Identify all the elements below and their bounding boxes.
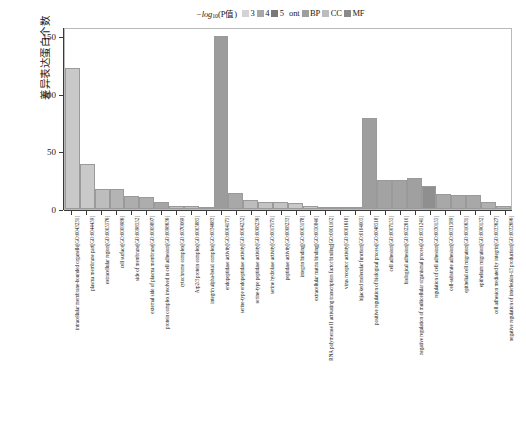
bar-cell — [481, 29, 496, 209]
bar-cell — [332, 29, 347, 209]
bar[interactable] — [65, 68, 80, 209]
bar-cell — [139, 29, 154, 209]
y-axis-tick-label: 0 — [16, 205, 56, 215]
x-axis-tick — [79, 211, 94, 215]
x-axis-tick — [94, 211, 109, 215]
x-label-cell: cytochrome complex[GO:0070069] — [169, 216, 184, 421]
x-label-cell: cell adhesion mediated by integrin[GO:00… — [482, 216, 497, 421]
bar[interactable] — [124, 196, 139, 209]
x-label-cell: serine-type endopeptidase activity[GO:00… — [228, 216, 243, 421]
bar[interactable] — [258, 202, 273, 209]
x-axis-tick-label: hijacked molecular function[GO:0104005] — [355, 216, 361, 301]
bar-cell — [407, 29, 422, 209]
x-axis-tick — [169, 211, 184, 215]
bar[interactable] — [214, 36, 229, 209]
plot-area — [64, 28, 512, 210]
bar[interactable] — [347, 207, 362, 209]
x-label-cell: hijacked molecular function[GO:0104005] — [348, 216, 363, 421]
legend-label-4: 4 — [265, 8, 269, 18]
x-label-cell: side of membrane[GO:0098552] — [124, 216, 139, 421]
bar[interactable] — [422, 186, 437, 209]
y-axis-tick — [59, 37, 63, 38]
x-label-cell: RNA polymerase II activating transcripti… — [318, 216, 333, 421]
x-axis-tick-label: plasma membrane part[GO:0044459] — [86, 216, 92, 291]
bar[interactable] — [332, 207, 347, 209]
x-axis-tick — [437, 211, 452, 215]
bar[interactable] — [362, 118, 377, 209]
x-axis-tick — [184, 211, 199, 215]
bar-cell — [318, 29, 333, 209]
bar[interactable] — [139, 197, 154, 209]
bar[interactable] — [451, 195, 466, 209]
x-label-cell: extracellular region[GO:0005576] — [94, 216, 109, 421]
bar[interactable] — [481, 202, 496, 209]
bar[interactable] — [466, 195, 481, 209]
bar[interactable] — [184, 206, 199, 209]
x-axis-tick-label: side of membrane[GO:0098552] — [131, 216, 137, 281]
bar-cell — [199, 29, 214, 209]
bar[interactable] — [199, 207, 214, 209]
x-axis-tick — [198, 211, 213, 215]
bar-cell — [288, 29, 303, 209]
chart-legend: −log10(P值) 3 4 5 ont BP CC — [196, 7, 366, 19]
x-axis-tick-label: negative regulation of multicellular org… — [415, 216, 421, 355]
bar-cell — [496, 29, 511, 209]
bar-cell — [377, 29, 392, 209]
legend-swatch-4 — [257, 10, 264, 17]
bar-cell — [347, 29, 362, 209]
bar[interactable] — [80, 164, 95, 209]
bar-cell — [392, 29, 407, 209]
bar[interactable] — [228, 193, 243, 209]
legend-group-pvalue: 3 4 5 — [242, 8, 286, 18]
bar[interactable] — [496, 206, 511, 209]
bar[interactable] — [169, 206, 184, 209]
x-label-cell: epithelium migration[GO:0090132] — [467, 216, 482, 421]
x-axis-tick-label: epithelium migration[GO:0090132] — [475, 216, 481, 287]
bar[interactable] — [392, 180, 407, 209]
legend-item-pvalue-5[interactable]: 5 — [271, 8, 284, 18]
x-axis-tick — [109, 211, 124, 215]
bar[interactable] — [95, 189, 110, 209]
legend-item-pvalue-4[interactable]: 4 — [257, 8, 270, 18]
x-axis-tick-label: serine-type peptidase activity[GO:000823… — [251, 216, 257, 304]
legend-label-3: 3 — [251, 8, 255, 18]
x-axis-tick — [423, 211, 438, 215]
bar[interactable] — [110, 189, 125, 209]
y-axis-tick-label: 150 — [16, 32, 56, 42]
legend-title-prefix: −log — [196, 9, 212, 19]
x-label-cell: cell surface[GO:0009986] — [109, 216, 124, 421]
bar[interactable] — [273, 202, 288, 209]
legend-item-ont-mf[interactable]: MF — [344, 8, 365, 18]
x-label-cell: extracellular matrix binding[GO:0050840] — [303, 216, 318, 421]
legend-item-ont-cc[interactable]: CC — [322, 8, 342, 18]
bar[interactable] — [407, 178, 422, 209]
x-axis-tick-label: RNA polymerase II activating transcripti… — [325, 216, 331, 361]
y-axis-tick — [59, 95, 63, 96]
bar[interactable] — [243, 200, 258, 209]
x-axis-tick — [273, 211, 288, 215]
legend-item-ont-bp[interactable]: BP — [302, 8, 321, 18]
bar[interactable] — [318, 207, 333, 209]
legend-item-pvalue-3[interactable]: 3 — [242, 8, 255, 18]
x-axis-tick — [288, 211, 303, 215]
x-axis-tick-label: peptidase activity[GO:0008233] — [281, 216, 287, 280]
x-axis-tick-label: regulation of cell adhesion[GO:0030155] — [430, 216, 436, 298]
x-axis-tick — [318, 211, 333, 215]
x-axis-tick — [139, 211, 154, 215]
y-axis-tick-labels: 050100150 — [10, 0, 56, 426]
x-label-cell: integrin binding[GO:0005178] — [288, 216, 303, 421]
x-axis-tick — [243, 211, 258, 215]
bar-cell — [362, 29, 377, 209]
y-axis-tick-label: 100 — [16, 90, 56, 100]
bar-cell — [95, 29, 110, 209]
x-label-cell: epithelial cell migration[GO:0010631] — [452, 216, 467, 421]
bar[interactable] — [303, 206, 318, 209]
x-axis-tick — [348, 211, 363, 215]
bar[interactable] — [377, 180, 392, 209]
bar[interactable] — [436, 194, 451, 209]
x-label-cell: plasma membrane part[GO:0044459] — [79, 216, 94, 421]
x-axis-tick — [333, 211, 348, 215]
bar[interactable] — [288, 203, 303, 209]
bar[interactable] — [154, 202, 169, 209]
legend-label-cc: CC — [331, 8, 342, 18]
